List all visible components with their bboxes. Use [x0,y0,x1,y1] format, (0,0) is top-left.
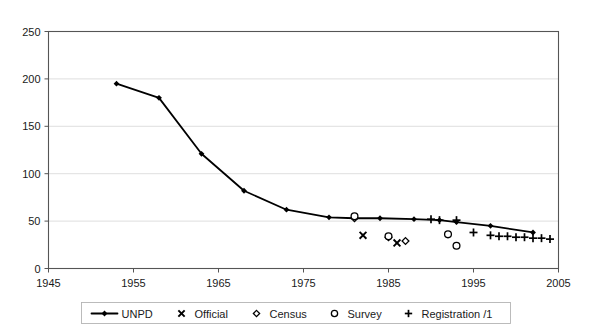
y-tick-label: 100 [22,168,40,180]
x-tick-label: 1985 [376,277,400,289]
y-tick-label: 0 [34,263,40,275]
legend-label: Census [270,308,308,320]
x-tick-label: 1955 [121,277,145,289]
legend-label: Survey [348,308,383,320]
marker-circle-open [331,310,337,316]
x-tick-label: 1945 [36,277,60,289]
chart-container: 050100150200250 194519551965197519851995… [0,0,592,335]
marker-circle-open [445,231,452,238]
y-tick-label: 150 [22,120,40,132]
legend-label: Registration /1 [422,308,493,320]
mortality-trend-chart: 050100150200250 194519551965197519851995… [0,0,592,335]
legend-label: Official [195,308,228,320]
y-tick-label: 250 [22,26,40,38]
legend-label: UNPD [122,308,153,320]
chart-legend: UNPDOfficialCensusSurveyRegistration /1 [82,303,511,324]
x-tick-label: 1965 [206,277,230,289]
x-tick-label: 2005 [546,277,570,289]
y-tick-label: 50 [28,215,40,227]
y-tick-label: 200 [22,73,40,85]
x-tick-label: 1975 [291,277,315,289]
marker-circle-open [351,213,358,220]
x-tick-label: 1995 [461,277,485,289]
marker-circle-open [453,242,460,249]
marker-circle-open [385,233,392,240]
